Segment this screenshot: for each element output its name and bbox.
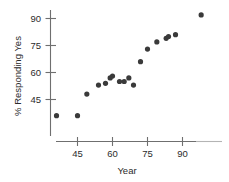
data-point	[173, 32, 178, 37]
x-axis	[56, 137, 222, 146]
data-point	[166, 34, 171, 39]
x-tick-label-90: 90	[177, 148, 188, 159]
data-point	[110, 74, 115, 79]
data-point	[84, 92, 89, 97]
scatter-plot-figure: 90 75 60 45 45 60 75 90 Year % Respondin…	[0, 0, 229, 182]
data-point	[126, 75, 131, 80]
data-point	[96, 83, 101, 88]
y-axis-title: % Responding Yes	[12, 36, 23, 116]
data-point	[199, 12, 204, 17]
data-point	[145, 47, 150, 52]
x-tick-label-75: 75	[142, 148, 153, 159]
y-tick-label-60: 60	[30, 67, 41, 78]
y-tick-label-75: 75	[30, 40, 41, 51]
data-point	[131, 83, 136, 88]
x-axis-title: Year	[117, 165, 136, 176]
chart-canvas: 90 75 60 45 45 60 75 90 Year % Respondin…	[0, 0, 229, 182]
data-point	[154, 39, 159, 44]
data-point	[103, 81, 108, 86]
data-point	[117, 79, 122, 84]
data-point	[122, 79, 127, 84]
y-tick-label-90: 90	[30, 13, 41, 24]
data-point	[138, 59, 143, 64]
data-points-layer	[54, 12, 204, 118]
x-tick-label-45: 45	[72, 148, 83, 159]
data-point	[54, 113, 59, 118]
y-tick-label-45: 45	[30, 94, 41, 105]
data-point	[75, 113, 80, 118]
x-tick-label-60: 60	[107, 148, 118, 159]
